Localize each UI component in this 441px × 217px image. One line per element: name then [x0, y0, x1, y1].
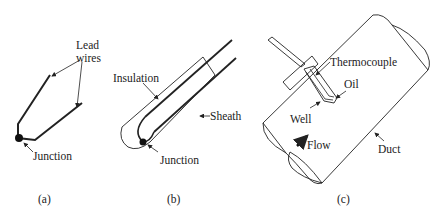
duct-end-left: [288, 152, 322, 183]
well-label: Well: [290, 113, 311, 125]
flow-label: Flow: [307, 139, 331, 151]
junction-label-b: Junction: [160, 154, 199, 166]
junction-label: Junction: [33, 150, 72, 162]
sheath-label: Sheath: [210, 110, 242, 122]
thermocouple-label: Thermocouple: [330, 56, 397, 69]
insulation-arrow: [143, 83, 158, 99]
well-arrow: [310, 102, 320, 108]
insulation-label: Insulation: [113, 72, 159, 84]
oil-arrow: [336, 91, 346, 98]
junction-arrow: [24, 143, 33, 152]
lead-wire-arrow-2: [77, 62, 82, 107]
caption-c: (c): [337, 193, 350, 206]
panel-c: Thermocouple Oil Well Flow Duct (c): [263, 15, 429, 206]
lead-wires: [18, 75, 82, 140]
duct-body: [263, 15, 428, 184]
lead-label: Lead: [76, 39, 99, 51]
thermocouple-figure: Lead wires Junction (a) Insulation Sheat…: [0, 0, 441, 217]
duct-label: Duct: [378, 143, 401, 155]
wires-label: wires: [76, 52, 101, 64]
flow-arrow: [297, 136, 307, 146]
wire-1-tip: [138, 117, 145, 142]
junction-arrow-b: [148, 145, 158, 152]
panel-a: Lead wires Junction (a): [15, 39, 101, 206]
thermocouple-rod: [268, 37, 305, 67]
junction-dot: [15, 134, 23, 142]
panel-b: Insulation Sheath Junction (b): [113, 40, 242, 206]
caption-b: (b): [167, 193, 181, 206]
sheath-outline: [121, 57, 215, 149]
duct-arrow: [375, 133, 384, 141]
oil-label: Oil: [344, 78, 359, 90]
caption-a: (a): [38, 193, 51, 206]
junction-dot-b: [140, 139, 147, 146]
